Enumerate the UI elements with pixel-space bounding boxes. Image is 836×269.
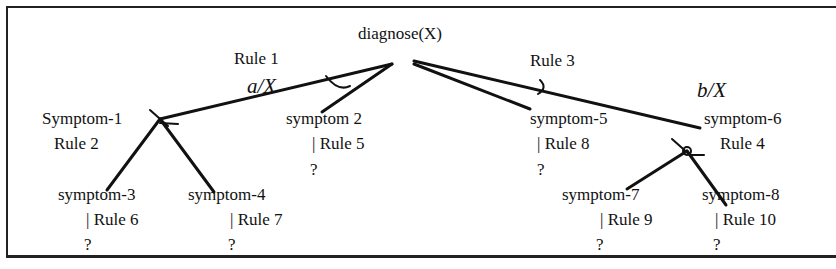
symptom-2-node: symptom 2 — [286, 110, 362, 127]
rule-10-label: | Rule 10 — [715, 211, 776, 228]
edge-root-symptom5 — [414, 64, 530, 109]
rule-4-label: Rule 4 — [720, 135, 765, 152]
rule-9-label: | Rule 9 — [600, 211, 653, 228]
symptom-7-unknown: ? — [596, 236, 604, 253]
symptom-5-unknown: ? — [537, 161, 545, 178]
rule-6-label: | Rule 6 — [86, 211, 139, 228]
rule-7-label: | Rule 7 — [230, 211, 283, 228]
symptom-4-node: symptom-4 — [188, 186, 265, 203]
binding-b-label: b/X — [697, 80, 726, 101]
symptom-2-unknown: ? — [310, 161, 318, 178]
symptom-1-node: Symptom-1 — [42, 110, 122, 127]
edge-symptom6-symptom7 — [627, 151, 687, 189]
symptom-3-node: symptom-3 — [58, 186, 135, 203]
edge-symptom1-symptom4 — [160, 119, 214, 192]
symptom-8-unknown: ? — [713, 236, 721, 253]
symptom-8-node: symptom-8 — [702, 186, 779, 203]
rule-3-label: Rule 3 — [530, 52, 575, 69]
rule-2-label: Rule 2 — [54, 135, 99, 152]
symptom-6-node: symptom-6 — [704, 110, 781, 127]
binding-a-label: a/X — [247, 76, 276, 97]
symptom-5-node: symptom-5 — [530, 110, 607, 127]
symptom-7-node: symptom-7 — [562, 186, 639, 203]
rule-1-label: Rule 1 — [234, 50, 279, 67]
rule-8-label: | Rule 8 — [537, 135, 590, 152]
symptom-3-unknown: ? — [84, 236, 92, 253]
rule-5-label: | Rule 5 — [312, 135, 365, 152]
edge-symptom1-symptom3 — [107, 119, 160, 190]
root-node-label: diagnose(X) — [358, 25, 442, 42]
symptom-4-unknown: ? — [228, 236, 236, 253]
